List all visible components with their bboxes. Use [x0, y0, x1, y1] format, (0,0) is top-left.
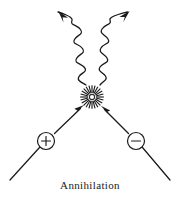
electron-incoming-track	[143, 148, 171, 181]
photon-left-wave	[58, 12, 86, 85]
figure-caption: Annihilation	[0, 179, 180, 191]
annihilation-figure: Annihilation	[0, 0, 180, 198]
electron-arrow	[101, 106, 129, 134]
photon-left-arrowhead	[58, 11, 68, 23]
photon-right-wave	[99, 12, 127, 85]
electron-group	[101, 106, 170, 180]
photon-left-group	[58, 11, 86, 85]
photon-right-group	[99, 11, 129, 85]
annihilation-diagram-canvas	[0, 0, 180, 198]
positron-incoming-track	[10, 148, 40, 181]
positron-group	[10, 105, 84, 180]
positron-arrow	[55, 105, 85, 134]
